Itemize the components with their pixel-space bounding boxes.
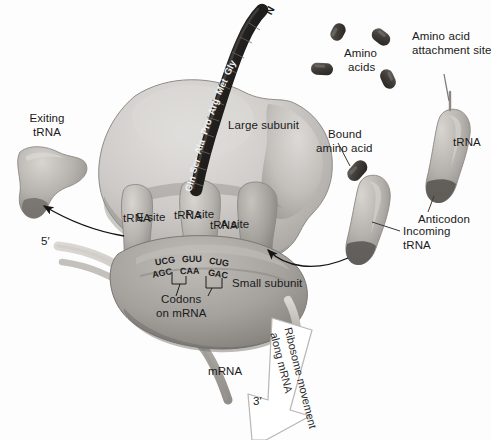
reference-trna-label: tRNA [453,136,481,149]
five-prime-label: 5′ [41,235,50,248]
exiting-trna-label-line2: tRNA [16,126,78,139]
a-site-sublabel: tRNA [210,219,238,232]
bound-amino-acid-label-line1: Bound [328,128,362,141]
incoming-trna-label-line2: tRNA [403,239,431,252]
attachment-site-label-line1: Amino acid [412,30,470,43]
codon-2: CAA [180,266,200,277]
amino-acids-label-line2: acids [348,61,375,74]
three-prime-label: 3′ [253,395,262,408]
small-subunit-label: Small subunit [232,277,302,290]
codons-label-line1: Codons [161,293,201,306]
incoming-trna [344,157,390,265]
mrna-label: mRNA [208,365,242,378]
exiting-trna-label-line1: Exiting [16,112,78,125]
p-site-sublabel: tRNA [174,209,202,222]
codons-label-line2: on mRNA [156,307,207,320]
anticodon-2: GUU [182,254,202,265]
e-site-sublabel: tRNA [123,212,151,225]
incoming-trna-label-line1: Incoming [403,225,450,238]
bound-amino-acid-label-line2: amino acid [316,142,373,155]
amino-acids-label-line1: Amino [344,47,377,60]
large-subunit-label: Large subunit [228,119,299,132]
figure-canvas: Gln Ser Ala Pro Arg Met Gly N Exiting tR… [0,0,491,440]
attachment-site-label-line2: attachment site [412,44,491,57]
exiting-trna [18,147,87,219]
attachment-leader-line [444,74,449,101]
